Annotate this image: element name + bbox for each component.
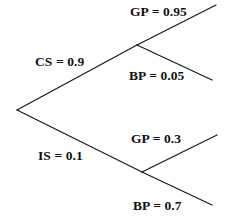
edge-label-cs: CS = 0.9 [35, 55, 84, 69]
edge-label-bp-07: BP = 0.7 [133, 199, 182, 213]
edge-label-gp-03: GP = 0.3 [131, 132, 181, 146]
edge-label-bp-005: BP = 0.05 [129, 69, 184, 83]
probability-tree-diagram: GP = 0.95 CS = 0.9 BP = 0.05 GP = 0.3 IS… [0, 0, 230, 223]
edge-label-gp-095: GP = 0.95 [130, 5, 187, 19]
edge-label-is: IS = 0.1 [38, 149, 83, 163]
tree-branches [0, 0, 230, 223]
